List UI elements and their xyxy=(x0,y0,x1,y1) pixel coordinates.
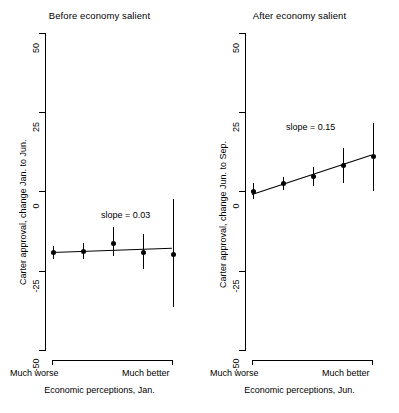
y-ticklabel-neg25-after: -25 xyxy=(231,271,241,301)
x-axis-title-after: Economic perceptions, Jun. xyxy=(200,385,399,395)
y-axis-line-before xyxy=(45,33,46,351)
x-ticklabel-much-worse-before: Much worse xyxy=(10,368,59,378)
y-ticklabel-50-before: 50 xyxy=(31,33,41,63)
x-axis-left-tick-before xyxy=(52,360,53,365)
data-point xyxy=(141,250,146,255)
x-axis-line-before xyxy=(52,360,172,361)
data-point xyxy=(81,249,86,254)
data-point xyxy=(51,250,56,255)
data-point xyxy=(111,241,116,246)
x-axis-right-tick-after xyxy=(372,360,373,365)
slope-annotation-after: slope = 0.15 xyxy=(286,122,335,132)
y-ticklabel-25-before: 25 xyxy=(31,112,41,142)
y-ticklabel-50-after: 50 xyxy=(231,33,241,63)
plot-area-before: 50 25 0 -25 -50 Carter approval, change … xyxy=(0,0,199,413)
x-axis-left-tick-after xyxy=(252,360,253,365)
y-ticklabel-neg25-before: -25 xyxy=(31,271,41,301)
regression-line-before xyxy=(52,248,172,253)
y-ticklabel-0-before: 0 xyxy=(31,191,41,221)
x-axis-right-tick-before xyxy=(172,360,173,365)
plot-area-after: 50 25 0 -25 -50 Carter approval, change … xyxy=(200,0,399,413)
y-axis-title-before: Carter approval, change Jan. to Jun. xyxy=(18,139,28,285)
x-ticklabel-much-better-before: Much better xyxy=(122,368,170,378)
panel-before-economy-salient: Before economy salient 50 25 0 -25 -50 C… xyxy=(0,0,199,413)
x-ticklabel-much-worse-after: Much worse xyxy=(210,368,259,378)
x-axis-title-before: Economic perceptions, Jan. xyxy=(0,385,199,395)
x-ticklabel-much-better-after: Much better xyxy=(322,368,370,378)
y-axis-line-after xyxy=(245,33,246,351)
y-axis-title-after: Carter approval, change Jun. to Sep. xyxy=(218,141,228,288)
panel-after-economy-salient: After economy salient 50 25 0 -25 -50 Ca… xyxy=(200,0,399,413)
y-ticklabel-25-after: 25 xyxy=(231,112,241,142)
data-point xyxy=(171,252,176,257)
data-point xyxy=(311,174,316,179)
data-point xyxy=(341,163,346,168)
data-point xyxy=(371,154,376,159)
slope-annotation-before: slope = 0.03 xyxy=(101,210,150,220)
data-point xyxy=(281,181,286,186)
y-ticklabel-0-after: 0 xyxy=(231,191,241,221)
x-axis-line-after xyxy=(252,360,372,361)
figure-panel-pair: Before economy salient 50 25 0 -25 -50 C… xyxy=(0,0,399,413)
data-point xyxy=(251,189,256,194)
